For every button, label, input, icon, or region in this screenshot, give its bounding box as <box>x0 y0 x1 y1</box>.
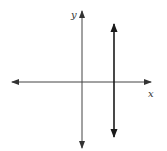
coordinate-plane-figure: y x <box>0 0 167 151</box>
x-axis-label: x <box>148 88 154 99</box>
y-axis-label: y <box>70 9 77 20</box>
